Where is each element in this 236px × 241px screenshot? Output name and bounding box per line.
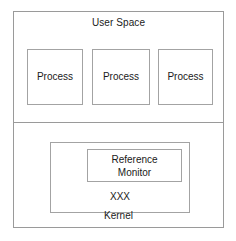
- process-box-2-label: Process: [103, 71, 139, 83]
- process-box-1: Process: [27, 49, 83, 105]
- kernel-region: Reference Monitor XXX Kernel: [13, 123, 224, 228]
- kernel-module-box: Reference Monitor XXX: [50, 142, 190, 213]
- kernel-label: Kernel: [13, 210, 224, 222]
- reference-monitor-label-line1: Reference: [111, 153, 157, 166]
- system-architecture-diagram: User Space Process Process Process Refer…: [0, 0, 236, 241]
- process-box-3-label: Process: [167, 71, 203, 83]
- kernel-module-label: XXX: [51, 191, 189, 203]
- user-space-label: User Space: [13, 17, 224, 29]
- reference-monitor-box: Reference Monitor: [87, 149, 182, 182]
- process-box-1-label: Process: [37, 71, 73, 83]
- process-box-3: Process: [158, 49, 213, 105]
- process-box-2: Process: [92, 49, 150, 105]
- reference-monitor-label-line2: Monitor: [118, 166, 151, 179]
